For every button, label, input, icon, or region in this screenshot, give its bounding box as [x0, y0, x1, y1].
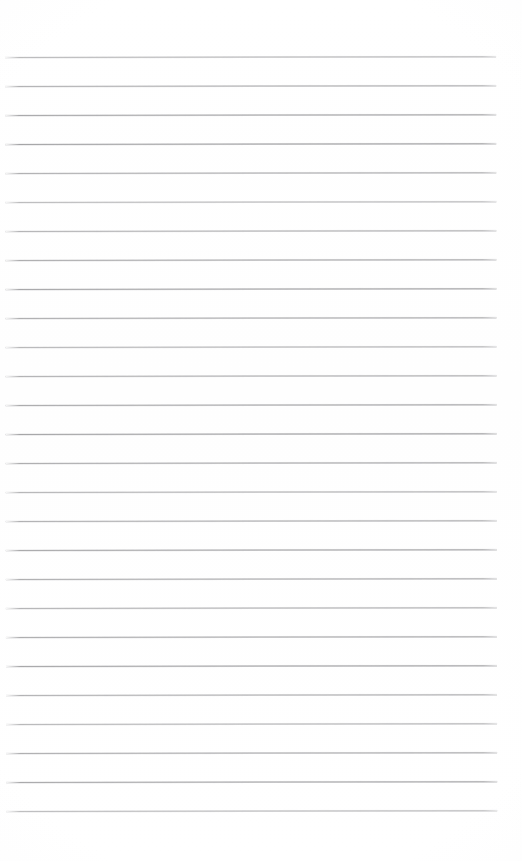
ruled-line — [6, 433, 497, 435]
ruled-line — [6, 723, 497, 725]
ruled-line — [5, 317, 496, 319]
ruled-line — [6, 781, 497, 783]
ruled-line — [6, 462, 497, 464]
ruled-line — [5, 230, 496, 232]
ruled-line — [6, 578, 497, 580]
ruled-line — [6, 375, 497, 377]
ruled-line — [5, 288, 496, 290]
ruled-line — [5, 143, 496, 145]
ruled-line — [5, 114, 496, 116]
ruled-line — [6, 694, 497, 696]
ruled-line — [6, 404, 497, 406]
ruled-line — [6, 810, 497, 812]
ruled-line — [6, 636, 497, 638]
ruled-line — [5, 85, 496, 87]
ruled-line — [6, 549, 497, 551]
ruled-line — [5, 201, 496, 203]
ruled-line — [5, 172, 496, 174]
ruled-line — [6, 607, 497, 609]
ruled-line — [5, 259, 496, 261]
ruled-line — [6, 520, 497, 522]
page-canvas — [0, 0, 522, 861]
ruled-line — [6, 491, 497, 493]
ruled-line — [6, 665, 497, 667]
ruled-line — [6, 346, 497, 348]
ruled-line — [5, 56, 496, 58]
ruled-line — [6, 752, 497, 754]
ruled-lines-group — [0, 0, 522, 861]
